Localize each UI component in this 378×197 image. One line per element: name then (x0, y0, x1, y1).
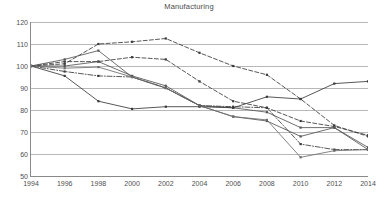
series-line-6 (31, 66, 368, 109)
y-axis-tick-label: 60 (4, 151, 28, 158)
chart-title: Manufacturing (0, 2, 378, 12)
data-point-marker (97, 50, 99, 52)
data-point-marker (97, 100, 99, 102)
y-axis-tick-label: 100 (4, 63, 28, 70)
data-point-marker (131, 108, 133, 110)
plot-svg (31, 22, 368, 176)
data-point-marker (165, 58, 167, 60)
data-point-marker (97, 75, 99, 77)
data-point-marker (266, 96, 268, 98)
data-point-marker (300, 98, 302, 100)
data-point-marker (97, 61, 99, 63)
y-axis-tick-label: 70 (4, 129, 28, 136)
data-point-marker (131, 76, 133, 78)
data-point-marker (232, 65, 234, 67)
data-point-marker (131, 56, 133, 58)
y-axis-tick-label: 90 (4, 85, 28, 92)
data-point-marker (97, 43, 99, 45)
data-point-marker (232, 100, 234, 102)
data-point-marker (97, 66, 99, 68)
data-point-marker (64, 63, 66, 65)
data-point-marker (64, 67, 66, 69)
data-point-marker (198, 52, 200, 54)
data-point-marker (165, 87, 167, 89)
series-line-5 (31, 66, 368, 150)
data-point-marker (232, 107, 234, 109)
data-point-marker (64, 58, 66, 60)
chart-container: Manufacturing 5060708090100110120 199419… (0, 0, 378, 197)
data-point-marker (333, 83, 335, 85)
series-line-3 (31, 51, 368, 148)
data-point-marker (367, 80, 368, 82)
series-line-7 (31, 66, 368, 157)
data-point-marker (333, 127, 335, 129)
y-axis-line (30, 22, 31, 177)
data-point-marker (266, 119, 268, 121)
data-point-marker (64, 70, 66, 72)
data-point-marker (300, 143, 302, 145)
plot-area (31, 22, 368, 176)
y-axis-tick-label: 50 (4, 173, 28, 180)
data-point-marker (367, 149, 368, 151)
data-point-marker (64, 61, 66, 63)
data-point-marker (31, 65, 32, 67)
y-axis-tick-label: 110 (4, 41, 28, 48)
x-axis-line (30, 176, 368, 177)
data-point-marker (64, 65, 66, 67)
data-point-marker (266, 74, 268, 76)
data-point-marker (333, 150, 335, 152)
data-point-marker (165, 37, 167, 39)
data-point-marker (131, 41, 133, 43)
y-axis-tick-label: 120 (4, 19, 28, 26)
data-point-marker (198, 80, 200, 82)
data-point-marker (300, 127, 302, 129)
data-point-marker (300, 156, 302, 158)
data-point-marker (266, 111, 268, 113)
data-point-marker (367, 146, 368, 148)
y-axis-tick-label: 80 (4, 107, 28, 114)
series-layer (31, 37, 368, 158)
data-point-marker (300, 135, 302, 137)
x-axis-labels: 1994199619982000200220042006200820102012… (31, 180, 368, 192)
gridlines (31, 23, 368, 177)
y-axis-labels: 5060708090100110120 (0, 0, 28, 197)
data-point-marker (64, 75, 66, 77)
x-axis-tick-label: 2014 (348, 180, 378, 188)
series-line-2 (31, 57, 368, 135)
data-point-marker (300, 120, 302, 122)
data-point-marker (232, 116, 234, 118)
data-point-marker (198, 105, 200, 107)
data-point-marker (165, 106, 167, 108)
data-point-marker (266, 107, 268, 109)
data-point-marker (165, 85, 167, 87)
data-point-marker (367, 134, 368, 136)
